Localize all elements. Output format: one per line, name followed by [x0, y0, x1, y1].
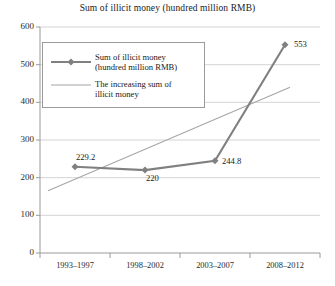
data-label-229-2: 229.2: [76, 152, 95, 162]
legend-label-illicit-money-line2: (hundred million RMB): [95, 62, 177, 73]
legend-label-increasing-sum-line2: illicit money: [95, 89, 139, 100]
y-tick-label-200: 200: [2, 172, 34, 182]
data-label-553: 553: [294, 39, 307, 49]
legend-label-illicit-money-line1: Sum of illicit money: [95, 52, 166, 63]
legend-swatch-trend-line: [49, 79, 95, 101]
y-tick-label-300: 300: [2, 134, 34, 144]
chart-legend: Sum of illicit money (hundred million RM…: [42, 42, 205, 108]
data-label-244-8: 244.8: [222, 156, 241, 166]
chart-container: Sum of illicit money (hundred million RM…: [0, 0, 335, 286]
x-tick-label-2003-2007: 2003–2007: [180, 261, 250, 270]
y-tick-label-400: 400: [2, 96, 34, 106]
x-tick-marks: [40, 253, 320, 258]
y-tick-label-500: 500: [2, 59, 34, 69]
y-tick-marks: [36, 27, 40, 253]
y-tick-label-100: 100: [2, 209, 34, 219]
y-tick-label-0: 0: [2, 247, 34, 257]
x-tick-label-2008-2012: 2008–2012: [250, 261, 320, 270]
data-label-220: 220: [146, 173, 159, 183]
y-tick-label-600: 600: [2, 21, 34, 31]
x-tick-label-1993-1997: 1993–1997: [40, 261, 110, 270]
x-tick-label-1998-2002: 1998–2002: [110, 261, 180, 270]
legend-swatch-line-marker: [49, 51, 95, 73]
legend-label-increasing-sum-line1: The increasing sum of: [95, 79, 172, 90]
